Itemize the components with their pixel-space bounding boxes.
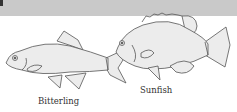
sunfish-fish <box>116 13 230 80</box>
bitterling-label: Bitterling <box>38 96 79 106</box>
fish-illustration <box>0 0 237 112</box>
sunfish-label: Sunfish <box>140 85 172 95</box>
bitterling-fish <box>6 31 126 89</box>
